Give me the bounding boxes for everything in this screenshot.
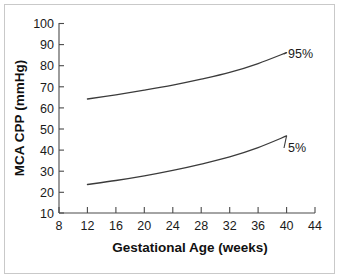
figure-container: 100 90 80 70 60 50 40 30 20 10 8 12 16 2…	[0, 0, 340, 279]
x-tick-label: 16	[109, 219, 123, 233]
y-tick-label: 20	[40, 186, 54, 200]
x-tick-marks	[59, 207, 315, 213]
y-tick-label: 90	[40, 38, 54, 52]
x-tick-label: 32	[223, 219, 237, 233]
axis-lines	[59, 23, 315, 213]
mca-cpp-gestational-age-chart: 100 90 80 70 60 50 40 30 20 10 8 12 16 2…	[0, 0, 340, 279]
y-tick-label: 10	[40, 207, 54, 221]
curve-95-percentile	[87, 53, 286, 99]
y-tick-marks	[59, 24, 64, 214]
y-tick-label: 30	[40, 165, 54, 179]
x-tick-label: 28	[194, 219, 208, 233]
x-tick-label: 44	[308, 219, 322, 233]
series-label-5: 5%	[288, 141, 306, 155]
curve-5-percentile	[87, 136, 286, 185]
series-label-95: 95%	[288, 47, 313, 61]
leader-line-5	[284, 136, 287, 148]
x-tick-label: 36	[251, 219, 265, 233]
y-tick-label: 100	[33, 17, 54, 31]
x-axis-title: Gestational Age (weeks)	[112, 240, 268, 255]
y-tick-label: 80	[40, 59, 54, 73]
y-tick-label: 40	[40, 144, 54, 158]
x-tick-label: 40	[280, 219, 294, 233]
x-tick-label: 12	[80, 219, 94, 233]
x-tick-label: 24	[166, 219, 180, 233]
y-tick-label: 70	[40, 81, 54, 95]
y-tick-label: 60	[40, 102, 54, 116]
y-tick-label: 50	[40, 123, 54, 137]
x-tick-labels: 8 12 16 20 24 28 32 36 40 44	[56, 219, 322, 233]
y-tick-labels: 100 90 80 70 60 50 40 30 20 10	[33, 17, 54, 221]
x-tick-label: 20	[137, 219, 151, 233]
x-tick-label: 8	[56, 219, 63, 233]
y-axis-title: MCA CPP (mmHg)	[12, 60, 27, 176]
